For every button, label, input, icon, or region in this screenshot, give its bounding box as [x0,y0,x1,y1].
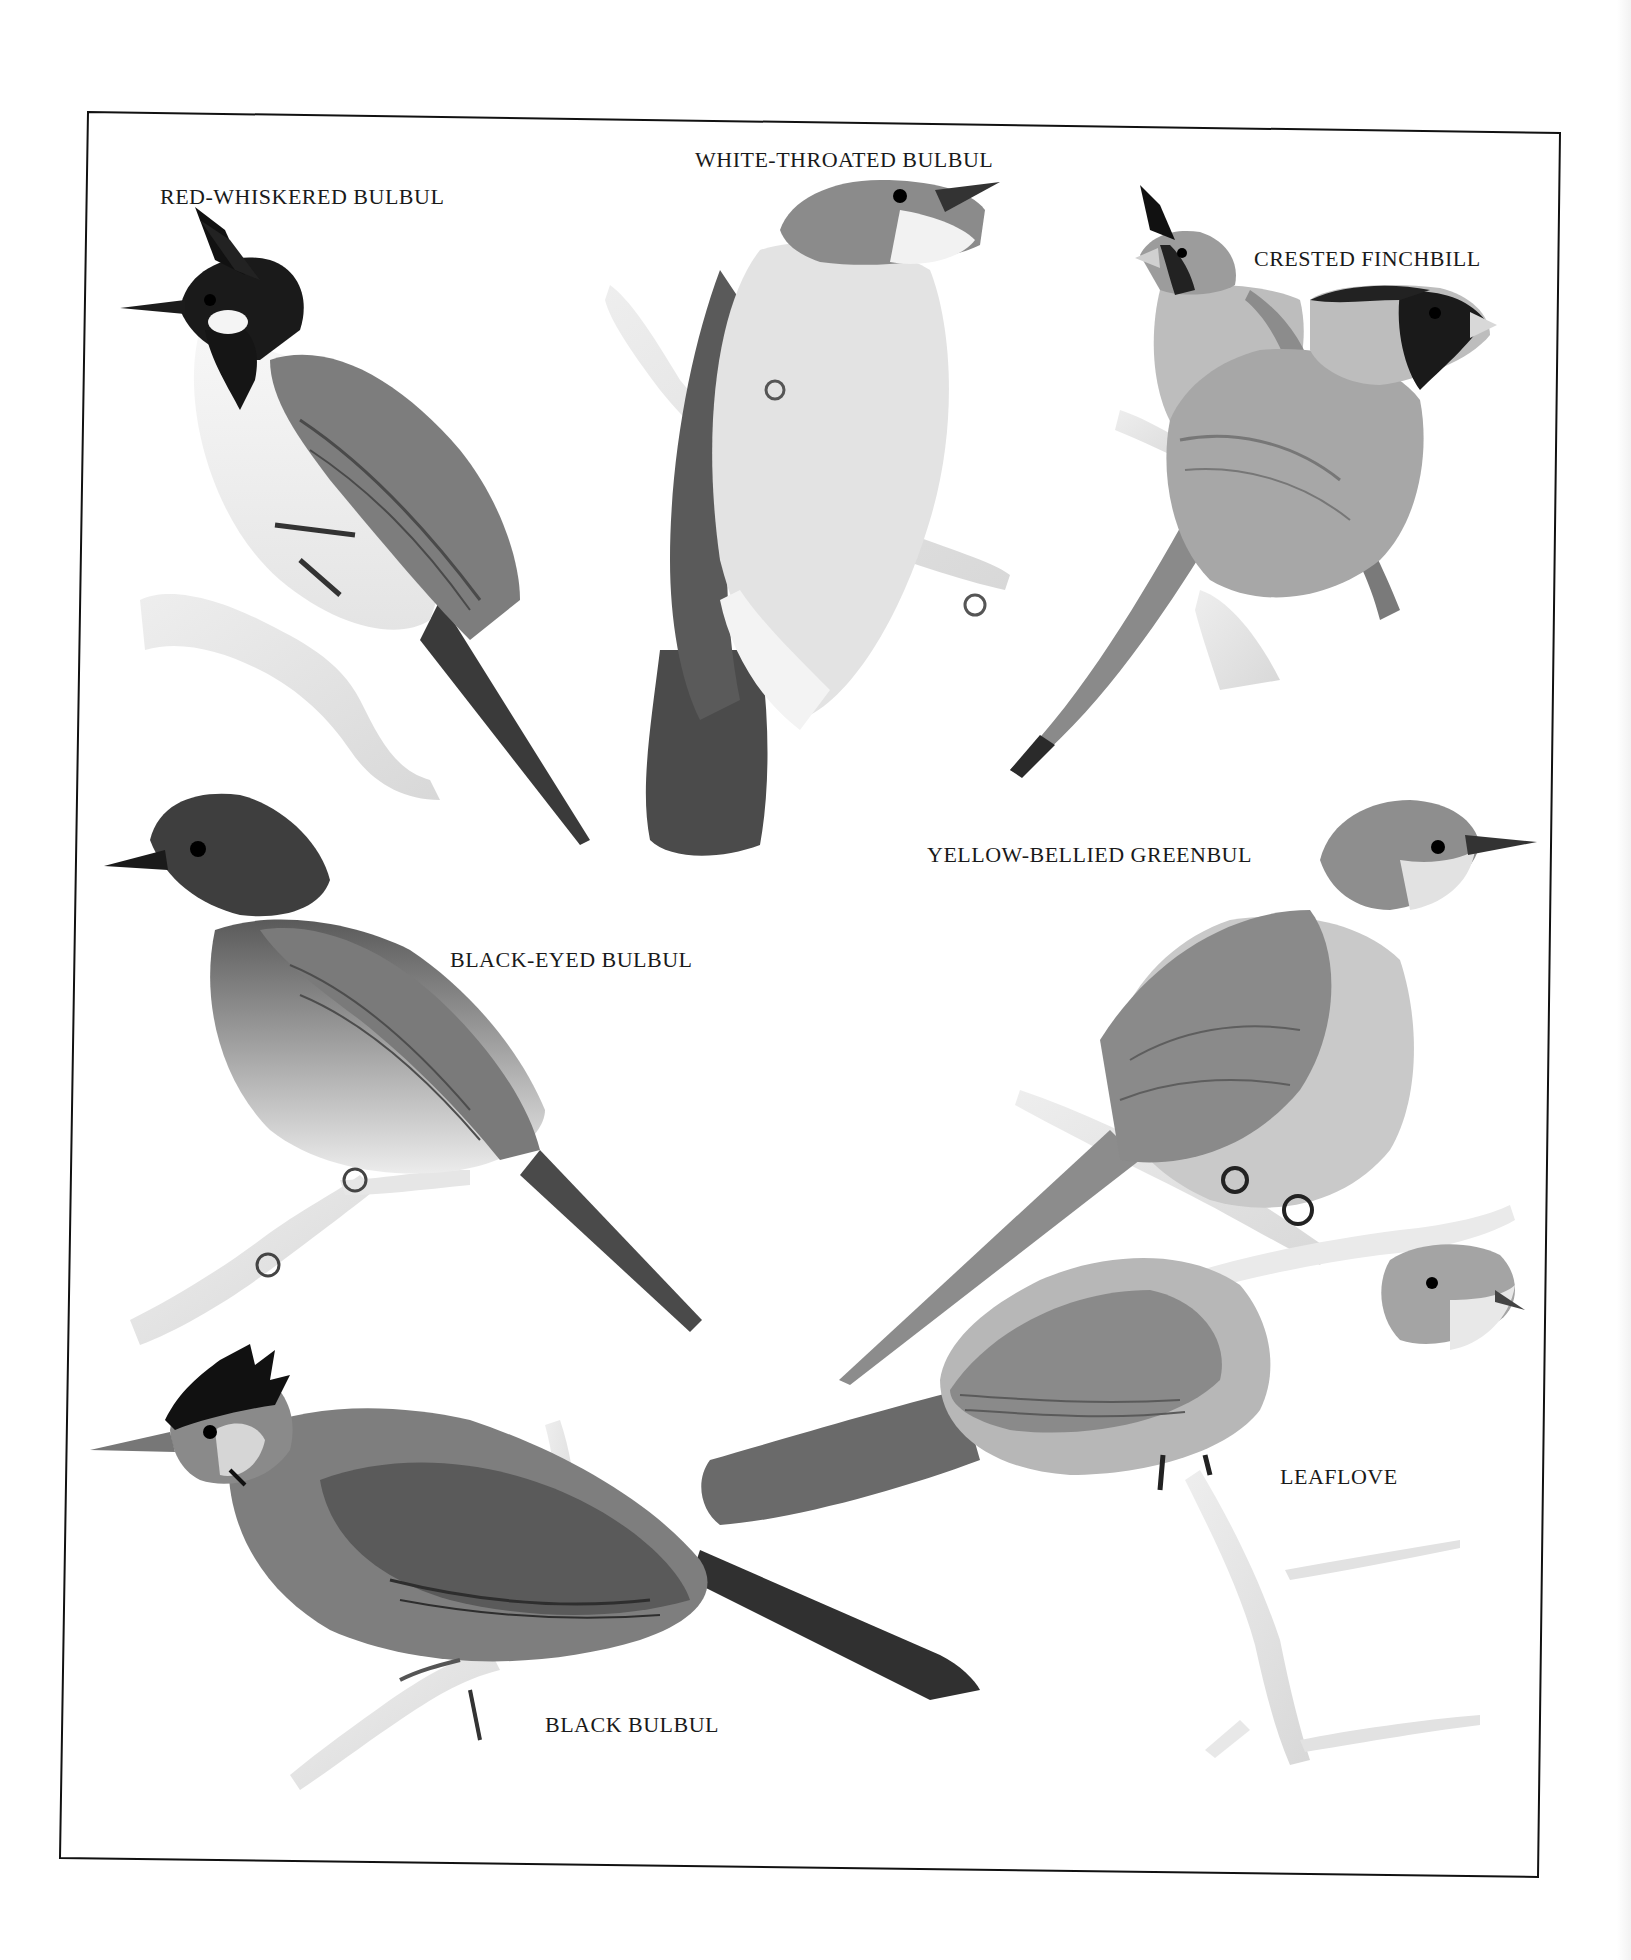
plate-illustration [0,0,1631,1960]
black-bulbul-illustration [90,1344,980,1790]
label-white-throated-bulbul: WHITE-THROATED BULBUL [695,149,993,171]
white-throated-bulbul-illustration [605,180,1010,856]
red-whiskered-bulbul-illustration [120,207,590,845]
label-red-whiskered-bulbul: RED-WHISKERED BULBUL [160,186,444,208]
leaflove-illustration [701,1244,1525,1765]
label-crested-finchbill: CRESTED FINCHBILL [1254,248,1481,270]
label-black-eyed-bulbul: BLACK-EYED BULBUL [450,949,693,971]
page-edge-shadow [1617,0,1631,1960]
crested-finchbill-illustration [1010,185,1497,778]
label-leaflove: LEAFLOVE [1280,1466,1398,1488]
black-eyed-bulbul-illustration [104,794,702,1345]
plate-page: RED-WHISKERED BULBUL WHITE-THROATED BULB… [0,0,1631,1960]
label-yellow-bellied-greenbul: YELLOW-BELLIED GREENBUL [927,844,1252,866]
label-black-bulbul: BLACK BULBUL [545,1714,719,1736]
